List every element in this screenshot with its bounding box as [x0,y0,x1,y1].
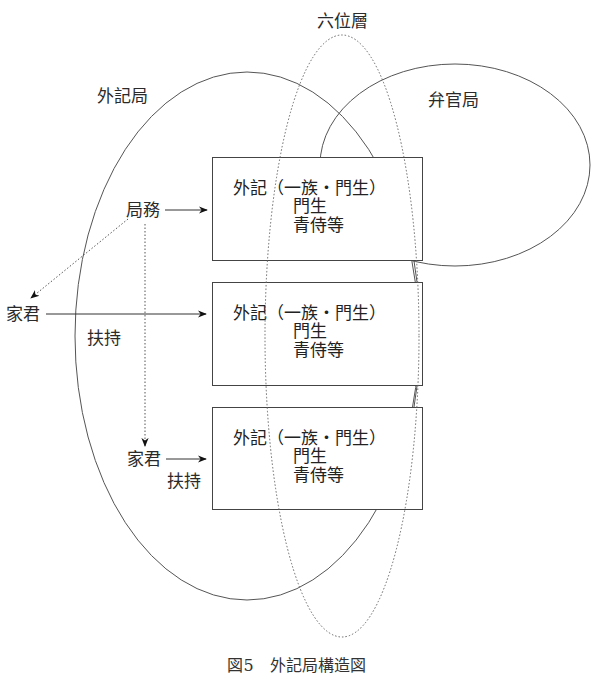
box-line-monsei: 門生 [293,198,327,215]
figure-caption: 図5 外記局構造図 [0,652,593,676]
box-line-aozamurai: 青侍等 [293,340,344,360]
kakun-label-2: 家君 [127,449,161,469]
gekikyoku-member-box-2: 外記（一族・門生） 門生 青侍等 [212,282,423,386]
box-line-monsei: 門生 [293,448,327,465]
fuji-label-2: 扶持 [167,471,201,491]
benkankyoku-label: 弁官局 [428,90,479,110]
gekikyoku-label: 外記局 [97,86,148,106]
box-line-monsei: 門生 [293,323,327,340]
box-line-aozamurai: 青侍等 [293,215,344,235]
kyokumu-label: 局務 [126,200,160,220]
box-line-geki: 外記（一族・門生） [233,178,386,198]
gekikyoku-member-box-1: 外記（一族・門生） 門生 青侍等 [212,157,423,261]
kakun-label-1: 家君 [6,304,40,324]
box-line-geki: 外記（一族・門生） [233,303,386,323]
rokuisou-label: 六位層 [317,11,368,31]
gekikyoku-member-box-3: 外記（一族・門生） 門生 青侍等 [212,407,423,510]
box-line-aozamurai: 青侍等 [293,465,344,485]
fuji-label-1: 扶持 [87,328,121,348]
box-line-geki: 外記（一族・門生） [233,428,386,448]
